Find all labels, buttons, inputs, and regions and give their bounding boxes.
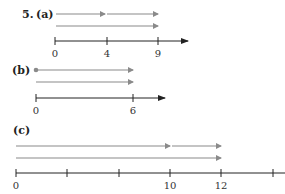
part-a-label: (a) — [36, 8, 54, 21]
tick-label: 4 — [104, 48, 110, 59]
problem-number: 5. — [22, 8, 33, 21]
part-b: (b) 0 6 — [12, 64, 165, 116]
tick-label: 12 — [215, 180, 228, 191]
part-b-label: (b) — [12, 64, 30, 77]
tick-label: 0 — [52, 48, 58, 59]
tick-label: 0 — [33, 105, 39, 116]
tick-label: 9 — [155, 48, 161, 59]
part-c-label: (c) — [13, 124, 30, 137]
tick-label: 6 — [130, 105, 136, 116]
vector-addition-diagram: 5. (a) 0 4 9 (b) 0 6 (c) 0 — [0, 0, 285, 194]
tick-label: 10 — [164, 180, 177, 191]
tick-label: 0 — [13, 180, 19, 191]
part-a: 5. (a) 0 4 9 — [22, 8, 188, 59]
part-c: (c) 0 10 12 — [13, 124, 285, 191]
